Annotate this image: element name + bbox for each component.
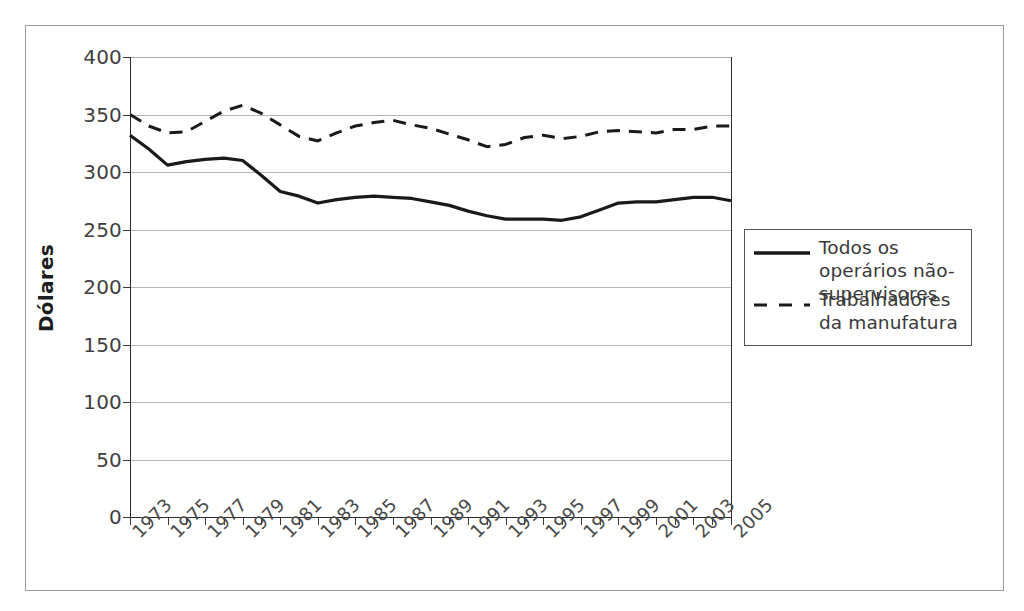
gridline [130,115,731,116]
y-tick-mark [123,230,130,231]
gridline [130,460,731,461]
y-tick-label: 50 [96,448,122,472]
y-axis-line [130,57,131,518]
legend-entry-series-0: Todos os operários não-supervisores [745,236,971,288]
y-tick-label: 150 [83,333,122,357]
y-axis-labels: 050100150200250300350400 [60,57,122,518]
y-tick-mark [123,517,130,518]
legend-swatch-dashed [753,299,811,311]
y-tick-mark [123,345,130,346]
legend-swatch-solid [753,247,811,259]
legend-label-series-1: Trabalhadores da manufatura [819,288,967,334]
y-tick-mark [123,287,130,288]
chart-legend: Todos os operários não-supervisores Trab… [744,229,972,346]
y-tick-mark [123,57,130,58]
y-tick-label: 350 [83,103,122,127]
gridline [130,57,731,58]
y-tick-mark [123,460,130,461]
gridline [130,230,731,231]
y-axis-title: Dólares [34,244,58,332]
y-tick-label: 0 [109,505,122,529]
y-tick-label: 100 [83,390,122,414]
y-tick-label: 300 [83,160,122,184]
gridline [130,287,731,288]
y-tick-label: 200 [83,275,122,299]
plot-area [130,57,731,517]
gridline [130,172,731,173]
y-tick-mark [123,172,130,173]
y-tick-label: 400 [83,45,122,69]
chart-figure: Dólares 050100150200250300350400 1973197… [0,0,1024,611]
legend-entry-series-1: Trabalhadores da manufatura [745,288,971,340]
y-tick-mark [123,115,130,116]
gridline [130,402,731,403]
y-tick-label: 250 [83,218,122,242]
plot-right-border [731,57,732,518]
gridline [130,345,731,346]
y-tick-mark [123,402,130,403]
x-axis-labels: 1973197519771979198119831985198719891991… [130,527,732,597]
